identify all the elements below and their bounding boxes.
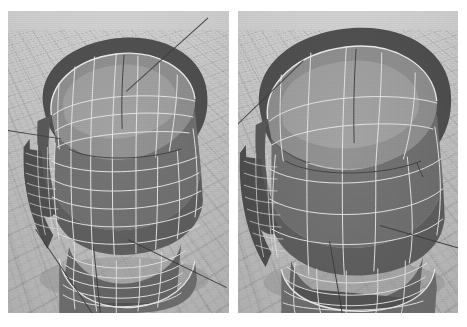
figure-container — [0, 0, 467, 327]
right-viewport-panel[interactable] — [238, 11, 459, 313]
left-viewport-panel[interactable] — [8, 11, 229, 313]
paper-grain-left — [8, 11, 229, 313]
paper-grain-right — [238, 11, 459, 313]
